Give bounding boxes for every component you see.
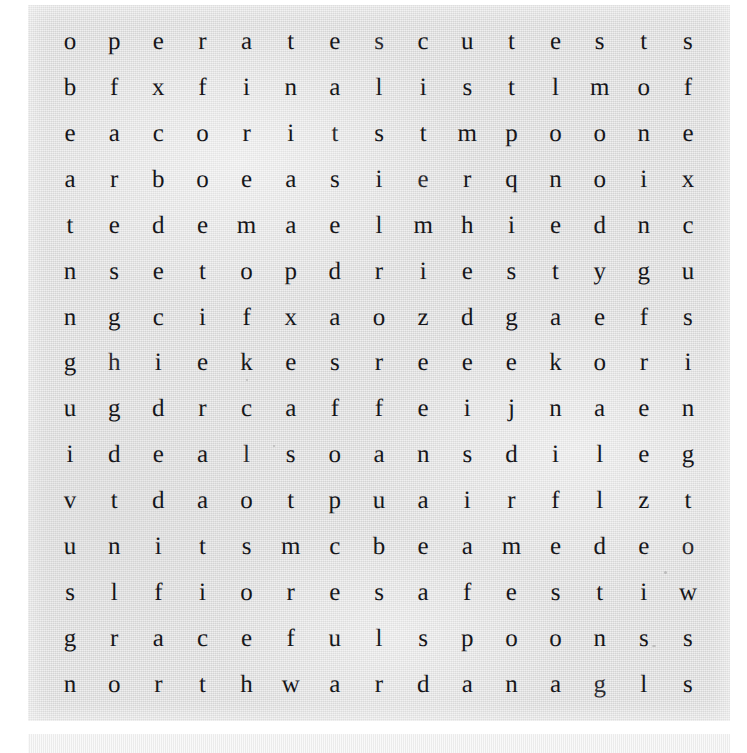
grid-cell[interactable]: r [92, 615, 136, 661]
grid-cell[interactable]: o [489, 615, 533, 661]
grid-cell[interactable]: o [180, 111, 224, 157]
grid-cell[interactable]: q [489, 157, 533, 203]
grid-cell[interactable]: o [313, 432, 357, 478]
grid-cell[interactable]: x [136, 65, 180, 111]
grid-cell[interactable]: t [269, 478, 313, 524]
grid-cell[interactable]: e [489, 340, 533, 386]
grid-cell[interactable]: g [92, 294, 136, 340]
grid-cell[interactable]: n [578, 615, 622, 661]
grid-cell[interactable]: f [357, 386, 401, 432]
grid-cell[interactable]: e [445, 340, 489, 386]
grid-cell[interactable]: i [445, 478, 489, 524]
grid-cell[interactable]: o [578, 157, 622, 203]
grid-cell[interactable]: d [136, 386, 180, 432]
grid-cell[interactable]: f [269, 615, 313, 661]
grid-cell[interactable]: c [225, 386, 269, 432]
grid-cell[interactable]: g [578, 661, 622, 707]
grid-cell[interactable]: a [533, 294, 577, 340]
grid-cell[interactable]: e [48, 111, 92, 157]
grid-cell[interactable]: o [578, 111, 622, 157]
grid-cell[interactable]: b [136, 157, 180, 203]
grid-cell[interactable]: i [401, 65, 445, 111]
grid-cell[interactable]: n [533, 157, 577, 203]
grid-cell[interactable]: f [445, 569, 489, 615]
grid-cell[interactable]: t [180, 524, 224, 570]
grid-cell[interactable]: u [48, 524, 92, 570]
grid-cell[interactable]: l [578, 432, 622, 478]
grid-cell[interactable]: e [225, 157, 269, 203]
grid-cell[interactable]: o [92, 661, 136, 707]
grid-cell[interactable]: d [578, 202, 622, 248]
grid-cell[interactable]: p [313, 478, 357, 524]
grid-cell[interactable]: n [269, 65, 313, 111]
grid-cell[interactable]: z [401, 294, 445, 340]
grid-cell[interactable]: s [92, 248, 136, 294]
grid-cell[interactable]: g [489, 294, 533, 340]
grid-cell[interactable]: i [269, 111, 313, 157]
grid-cell[interactable]: p [269, 248, 313, 294]
grid-cell[interactable]: a [533, 661, 577, 707]
grid-cell[interactable]: r [445, 157, 489, 203]
grid-cell[interactable]: f [180, 65, 224, 111]
grid-cell[interactable]: t [622, 19, 666, 65]
grid-cell[interactable]: o [622, 65, 666, 111]
grid-cell[interactable]: o [357, 294, 401, 340]
grid-cell[interactable]: t [180, 248, 224, 294]
grid-cell[interactable]: f [622, 294, 666, 340]
grid-cell[interactable]: n [622, 111, 666, 157]
grid-cell[interactable]: y [578, 248, 622, 294]
grid-cell[interactable]: o [225, 478, 269, 524]
grid-cell[interactable]: e [533, 202, 577, 248]
grid-cell[interactable]: t [489, 19, 533, 65]
grid-cell[interactable]: u [313, 615, 357, 661]
grid-cell[interactable]: f [225, 294, 269, 340]
grid-cell[interactable]: i [445, 386, 489, 432]
grid-cell[interactable]: s [313, 340, 357, 386]
grid-cell[interactable]: a [445, 524, 489, 570]
grid-cell[interactable]: t [666, 478, 710, 524]
grid-cell[interactable]: m [578, 65, 622, 111]
grid-cell[interactable]: a [313, 65, 357, 111]
grid-cell[interactable]: t [533, 248, 577, 294]
grid-cell[interactable]: i [180, 569, 224, 615]
grid-cell[interactable]: e [401, 524, 445, 570]
grid-cell[interactable]: s [666, 615, 710, 661]
grid-cell[interactable]: c [313, 524, 357, 570]
grid-cell[interactable]: d [445, 294, 489, 340]
grid-cell[interactable]: r [136, 661, 180, 707]
grid-cell[interactable]: f [136, 569, 180, 615]
grid-cell[interactable]: f [533, 478, 577, 524]
grid-cell[interactable]: d [313, 248, 357, 294]
grid-cell[interactable]: m [489, 524, 533, 570]
grid-cell[interactable]: d [578, 524, 622, 570]
grid-cell[interactable]: c [666, 202, 710, 248]
grid-cell[interactable]: s [445, 65, 489, 111]
grid-cell[interactable]: u [666, 248, 710, 294]
grid-cell[interactable]: b [48, 65, 92, 111]
grid-cell[interactable]: p [445, 615, 489, 661]
grid-cell[interactable]: r [92, 157, 136, 203]
grid-cell[interactable]: s [666, 19, 710, 65]
grid-cell[interactable]: s [357, 111, 401, 157]
grid-cell[interactable]: u [357, 478, 401, 524]
grid-cell[interactable]: c [180, 615, 224, 661]
grid-cell[interactable]: n [622, 202, 666, 248]
grid-cell[interactable]: i [666, 340, 710, 386]
grid-cell[interactable]: c [136, 294, 180, 340]
grid-cell[interactable]: i [136, 524, 180, 570]
grid-cell[interactable]: h [225, 661, 269, 707]
grid-cell[interactable]: s [578, 19, 622, 65]
grid-cell[interactable]: s [489, 248, 533, 294]
grid-cell[interactable]: i [622, 569, 666, 615]
grid-cell[interactable]: a [269, 386, 313, 432]
grid-cell[interactable]: a [578, 386, 622, 432]
grid-cell[interactable]: e [92, 202, 136, 248]
grid-cell[interactable]: a [401, 569, 445, 615]
grid-cell[interactable]: t [401, 111, 445, 157]
grid-cell[interactable]: e [313, 569, 357, 615]
grid-cell[interactable]: s [666, 661, 710, 707]
grid-cell[interactable]: e [533, 19, 577, 65]
grid-cell[interactable]: r [269, 569, 313, 615]
grid-cell[interactable]: a [445, 661, 489, 707]
grid-cell[interactable]: e [401, 157, 445, 203]
